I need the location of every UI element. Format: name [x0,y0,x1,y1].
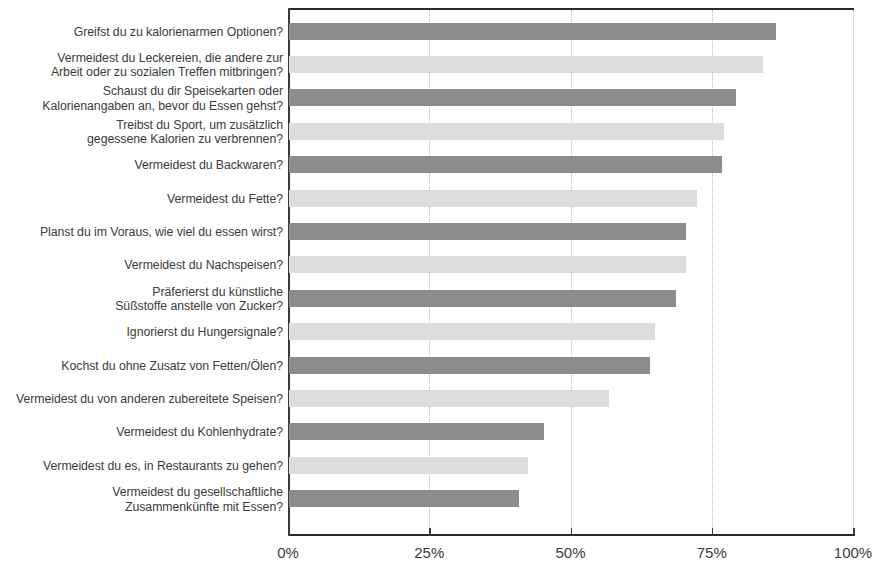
category-label: Vermeidest du Leckereien, die andere zur… [0,51,283,80]
bar [289,290,676,307]
category-label: Vermeidest du Kohlenhydrate? [0,425,283,440]
x-tick-label: 0% [277,544,299,561]
tick-mark-100pct [853,528,855,536]
bar [289,156,722,173]
x-tick-label: 75% [697,544,727,561]
category-label: Greifst du zu kalorienarmen Optionen? [0,25,283,40]
tick-mark-0pct [288,528,290,536]
category-label: Planst du im Voraus, wie viel du essen w… [0,225,283,240]
x-tick-label: 25% [414,544,444,561]
bar [289,190,697,207]
bar [289,123,724,140]
bar [289,357,650,374]
bar [289,423,544,440]
bar [289,56,763,73]
category-label: Vermeidest du Backwaren? [0,158,283,173]
category-label: Vermeidest du Fette? [0,192,283,207]
bar [289,323,655,340]
bar [289,89,736,106]
category-label: Vermeidest du von anderen zubereitete Sp… [0,392,283,407]
category-label: Ignorierst du Hungersignale? [0,325,283,340]
bar [289,256,686,273]
tick-mark-50pct [571,528,573,536]
bar [289,23,776,40]
category-label: Kochst du ohne Zusatz von Fetten/Ölen? [0,359,283,374]
tick-mark-75pct [712,528,714,536]
category-label: Vermeidest du Nachspeisen? [0,258,283,273]
gridline-100pct [853,10,854,534]
bar [289,490,519,507]
bar [289,457,528,474]
category-label: Vermeidest du es, in Restaurants zu gehe… [0,459,283,474]
category-label: Präferierst du künstliche Süßstoffe anst… [0,285,283,314]
horizontal-bar-chart: Greifst du zu kalorienarmen Optionen?Ver… [0,0,879,573]
bar [289,390,609,407]
tick-mark-25pct [429,528,431,536]
x-tick-label: 100% [834,544,872,561]
x-tick-label: 50% [555,544,585,561]
bar [289,223,686,240]
category-label: Treibst du Sport, um zusätzlich gegessen… [0,118,283,147]
category-label: Vermeidest du gesellschaftliche Zusammen… [0,485,283,514]
category-label: Schaust du dir Speisekarten oder Kalorie… [0,84,283,113]
